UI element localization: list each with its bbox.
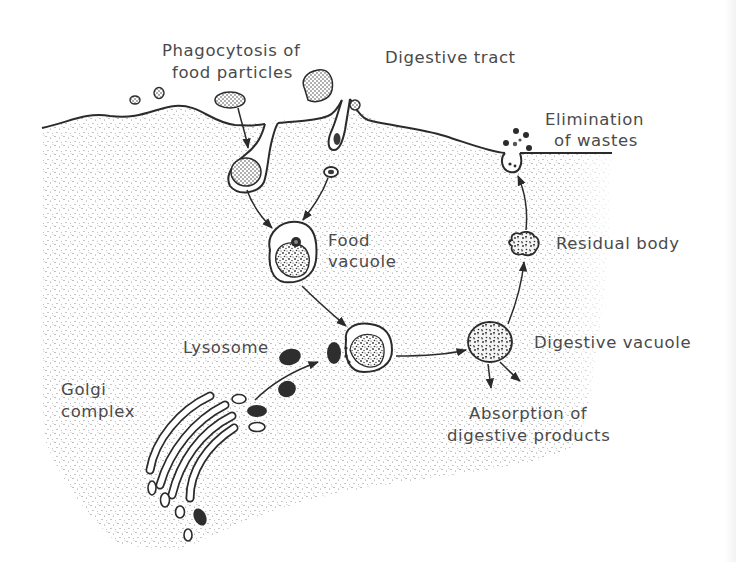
label-food-vacuole-2: vacuole — [328, 252, 396, 271]
label-digestive-vacuole: Digestive vacuole — [534, 333, 691, 352]
label-phagocytosis-1: Phagocytosis of — [162, 41, 301, 60]
food-vacuole — [269, 222, 316, 282]
label-absorption-2: digestive products — [447, 426, 610, 445]
label-phagocytosis-2: food particles — [172, 63, 293, 82]
label-residual-body: Residual body — [556, 234, 680, 253]
label-lysosome: Lysosome — [183, 338, 269, 357]
label-elimination-1: Elimination — [545, 110, 644, 129]
residual-body — [509, 232, 539, 255]
label-golgi-2: complex — [61, 402, 135, 421]
label-golgi-1: Golgi — [61, 380, 107, 399]
page-edge-shadow — [724, 0, 736, 562]
digestive-vacuole — [468, 322, 512, 362]
digestion-diagram: Phagocytosis of food particles Digestive… — [0, 0, 736, 562]
label-elimination-2: of wastes — [554, 131, 638, 150]
label-food-vacuole-1: Food — [328, 231, 370, 250]
label-digestive-tract: Digestive tract — [385, 48, 516, 67]
label-absorption-1: Absorption of — [469, 404, 588, 423]
